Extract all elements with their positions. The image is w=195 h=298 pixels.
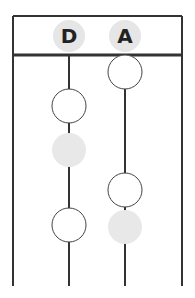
- column-d-node-filled: [52, 133, 86, 167]
- column-a-node-open: [108, 173, 142, 207]
- column-d-label: D: [61, 24, 78, 48]
- column-d: D: [52, 20, 86, 286]
- column-d-node-open: [52, 208, 86, 242]
- column-a: A: [108, 20, 142, 286]
- column-d-node-open: [52, 89, 86, 123]
- column-a-label: A: [117, 24, 133, 48]
- column-a-node-open: [108, 55, 142, 89]
- column-a-node-filled: [108, 210, 142, 244]
- ladder-diagram: D A: [0, 0, 195, 298]
